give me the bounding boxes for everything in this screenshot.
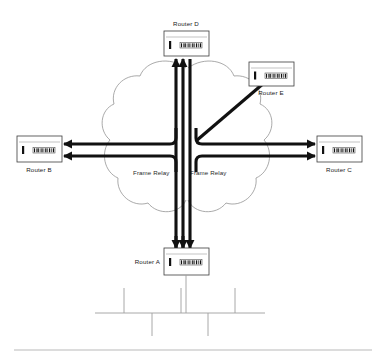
router-b-label: Router B — [26, 166, 52, 173]
router-d[interactable]: Router D — [164, 20, 209, 56]
router-b[interactable]: Router B — [17, 136, 62, 173]
router-icon — [333, 148, 355, 154]
router-d-label: Router D — [173, 20, 199, 27]
network-diagram: Frame Relay Frame Relay — [0, 0, 377, 361]
router-c-label: Router C — [326, 166, 352, 173]
router-a-label: Router A — [135, 258, 161, 265]
lan-bus — [95, 275, 265, 336]
diagram-canvas: Frame Relay Frame Relay — [0, 0, 377, 361]
frame-relay-cloud-left — [102, 61, 186, 212]
router-icon — [265, 73, 287, 79]
link-to-e — [196, 77, 271, 141]
router-icon — [180, 260, 202, 266]
link-to-b-upper — [64, 128, 176, 144]
router-a[interactable]: Router A — [135, 248, 209, 275]
router-e-label: Router E — [258, 89, 284, 96]
router-icon — [180, 43, 202, 49]
cloud-label-left: Frame Relay — [133, 169, 170, 176]
router-icon — [33, 148, 55, 154]
link-to-c-upper — [196, 128, 315, 144]
router-c[interactable]: Router C — [317, 136, 362, 173]
